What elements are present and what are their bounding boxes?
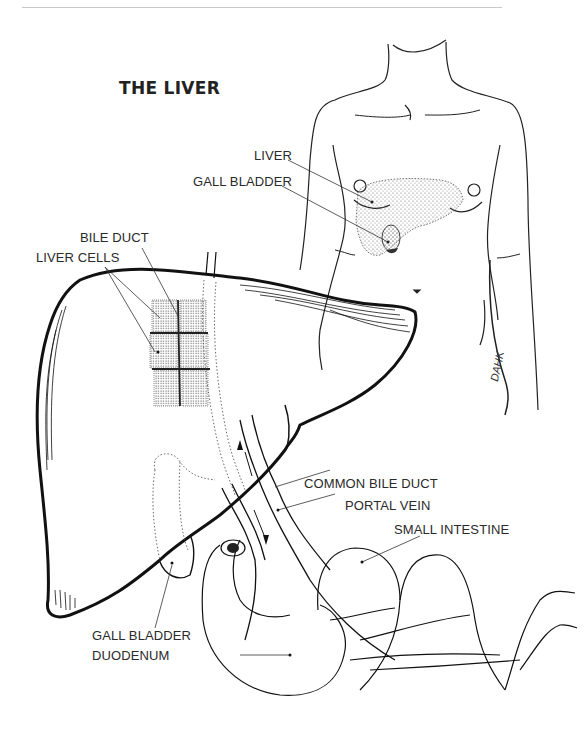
label-duodenum: DUODENUM: [92, 648, 169, 663]
small-intestine-shape: [318, 548, 577, 690]
label-portal-vein: PORTAL VEIN: [345, 498, 430, 513]
label-liver-cells: LIVER CELLS: [36, 250, 119, 265]
torso-liver-shape: [356, 179, 463, 256]
label-small-intestine: SMALL INTESTINE: [394, 522, 509, 537]
label-torso-gall-bladder: GALL BLADDER: [193, 174, 292, 189]
liver-cells-block: [150, 300, 210, 406]
label-gall-bladder: GALL BLADDER: [92, 628, 191, 643]
label-bile-duct: BILE DUCT: [80, 230, 149, 245]
main-liver: [37, 269, 416, 617]
label-common-bile-duct: COMMON BILE DUCT: [304, 476, 438, 491]
torso-gallbladder-shape: [382, 225, 400, 251]
label-torso-liver: LIVER: [254, 148, 292, 163]
